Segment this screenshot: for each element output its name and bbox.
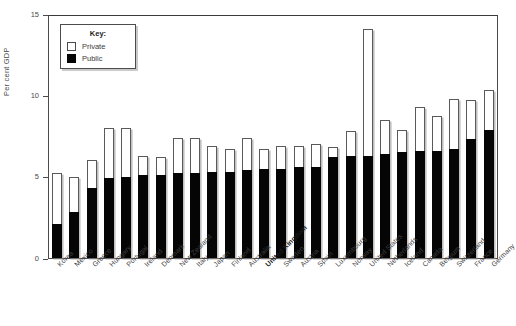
bar-switzerland	[449, 99, 459, 258]
bar-segment-public	[207, 172, 217, 258]
bar-segment-private	[52, 173, 62, 223]
x-label-slot: Spain	[311, 261, 321, 323]
x-label-slot: Denmark	[155, 261, 165, 323]
bar-segment-private	[380, 120, 390, 154]
bar-segment-public	[449, 149, 459, 258]
bar-segment-private	[87, 160, 97, 188]
bar-segment-public	[52, 224, 62, 258]
bar-segment-private	[207, 146, 217, 172]
legend-label-public: Public	[82, 54, 102, 63]
bar-segment-private	[121, 128, 131, 177]
bar-luxembourg	[328, 147, 338, 258]
bar-segment-public	[156, 175, 166, 258]
x-label-slot: France	[468, 261, 478, 323]
bar-norway	[346, 131, 356, 258]
x-label-slot: Austria	[294, 261, 304, 323]
bar-france	[466, 100, 476, 258]
x-label-slot: Greece	[86, 261, 96, 323]
bar-italy	[190, 138, 200, 258]
bar-segment-public	[104, 178, 114, 258]
bar-segment-private	[276, 146, 286, 169]
legend-swatch-private-icon	[67, 42, 76, 51]
bar-segment-private	[138, 156, 148, 176]
legend-swatch-public-icon	[67, 54, 76, 63]
bar-segment-public	[328, 157, 338, 258]
bar-korea	[52, 173, 62, 258]
bar-segment-private	[484, 90, 494, 129]
x-label-slot: United Kingdom	[259, 261, 269, 323]
x-label-slot: Switzerland	[450, 261, 460, 323]
bar-hungary	[104, 128, 114, 258]
bar-ireland	[138, 156, 148, 258]
bar-segment-public	[484, 130, 494, 259]
bar-segment-public	[363, 156, 373, 258]
x-label-slot: Italy	[190, 261, 200, 323]
bar-segment-private	[311, 144, 321, 167]
x-label-slot: Australia	[242, 261, 252, 323]
x-label-slot: United States	[363, 261, 373, 323]
bar-segment-private	[69, 177, 79, 213]
bar-netherlands	[380, 120, 390, 258]
bar-segment-public	[225, 172, 235, 258]
bar-australia	[242, 138, 252, 258]
legend-item-private: Private	[67, 42, 129, 51]
legend-title: Key:	[67, 29, 129, 38]
bar-united-states	[363, 29, 373, 258]
y-tick-label: 15	[31, 10, 39, 19]
x-label-slot: Portugal	[120, 261, 130, 323]
x-label-slot: Sweden	[277, 261, 287, 323]
bar-canada	[415, 107, 425, 258]
x-label-slot: Iceland	[398, 261, 408, 323]
bar-segment-private	[449, 99, 459, 149]
bar-segment-private	[363, 29, 373, 156]
bar-germany	[484, 90, 494, 258]
x-label-slot: Germany	[485, 261, 495, 323]
bar-segment-public	[432, 151, 442, 258]
bar-mexico	[69, 177, 79, 258]
bar-portugal	[121, 128, 131, 258]
x-label-slot: Finland	[225, 261, 235, 323]
bar-segment-private	[415, 107, 425, 151]
x-label-slot: Japan	[207, 261, 217, 323]
bar-segment-private	[397, 130, 407, 153]
bar-segment-private	[346, 131, 356, 155]
bar-greece	[87, 160, 97, 258]
bar-segment-private	[466, 100, 476, 139]
x-axis-labels: KoreaMexicoGreeceHungaryPortugalIrelandD…	[48, 261, 498, 323]
bar-belgium	[432, 116, 442, 258]
bar-spain	[311, 144, 321, 258]
x-label-slot: Netherlands	[381, 261, 391, 323]
y-axis-title: Per cent GDP	[2, 0, 11, 96]
x-label-slot: Korea	[51, 261, 61, 323]
bar-segment-private	[104, 128, 114, 178]
bar-finland	[225, 149, 235, 258]
bar-segment-public	[242, 170, 252, 258]
bar-denmark	[156, 157, 166, 258]
x-label-slot: Ireland	[138, 261, 148, 323]
chart-legend: Key: Private Public	[60, 24, 136, 69]
x-label-slot: New Zealand	[173, 261, 183, 323]
x-label-slot: Luxembourg	[329, 261, 339, 323]
y-tick-label: 0	[35, 254, 39, 263]
bar-segment-private	[328, 147, 338, 157]
bar-segment-private	[294, 146, 304, 167]
bar-segment-private	[242, 138, 252, 171]
bar-segment-public	[311, 167, 321, 258]
x-label-slot: Mexico	[68, 261, 78, 323]
y-tick-label: 10	[31, 91, 39, 100]
bar-segment-private	[173, 138, 183, 174]
bar-united-kingdom	[259, 149, 269, 258]
bar-segment-private	[156, 157, 166, 175]
x-label-slot: Hungary	[103, 261, 113, 323]
bar-segment-private	[432, 116, 442, 150]
y-tick-label: 5	[35, 172, 39, 181]
x-label-slot: Belgium	[433, 261, 443, 323]
bar-segment-public	[466, 139, 476, 258]
bar-segment-private	[225, 149, 235, 172]
legend-item-public: Public	[67, 54, 129, 63]
x-label-slot: Canada	[416, 261, 426, 323]
x-label-slot: Norway	[346, 261, 356, 323]
bar-segment-private	[259, 149, 269, 169]
bar-segment-private	[190, 138, 200, 174]
